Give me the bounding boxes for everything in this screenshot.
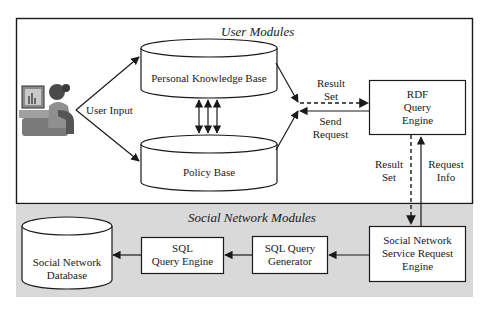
send-request-line1: Send	[303, 115, 358, 128]
sqlgen-line1: SQL Query	[252, 242, 328, 255]
result-set-top-label: Result Set	[306, 77, 356, 103]
snsre-line3: Engine	[369, 260, 466, 273]
user-modules-title: User Modules	[221, 24, 294, 40]
policy-base-cylinder	[141, 135, 277, 191]
sqlgen-line2: Generator	[252, 255, 328, 268]
request-info-line1: Request	[423, 158, 469, 171]
sql-query-generator-label: SQL Query Generator	[252, 242, 328, 268]
social-network-modules-title: Social Network Modules	[188, 210, 316, 226]
snsre-line1: Social Network	[369, 234, 466, 247]
result-set-top-line1: Result	[306, 77, 356, 90]
send-request-line2: Request	[303, 128, 358, 141]
sqleng-line2: Query Engine	[141, 255, 224, 268]
rdf-line3: Engine	[369, 114, 466, 127]
personal-knowledge-base-label: Personal Knowledge Base	[141, 72, 277, 85]
request-info-line2: Info	[423, 171, 469, 184]
result-set-right-line2: Set	[370, 171, 408, 184]
rdf-line2: Query	[369, 101, 466, 114]
social-network-database-label: Social Network Database	[22, 256, 112, 282]
request-info-label: Request Info	[423, 158, 469, 184]
policy-base-label: Policy Base	[141, 166, 277, 179]
sqleng-line1: SQL	[141, 242, 224, 255]
send-request-label: Send Request	[303, 115, 358, 141]
sn-service-request-engine-label: Social Network Service Request Engine	[369, 234, 466, 273]
sndb-line1: Social Network	[22, 256, 112, 269]
sql-query-engine-label: SQL Query Engine	[141, 242, 224, 268]
sndb-line2: Database	[22, 269, 112, 282]
result-set-right-line1: Result	[370, 158, 408, 171]
rdf-query-engine-label: RDF Query Engine	[369, 88, 466, 127]
result-set-top-line2: Set	[306, 90, 356, 103]
user-input-label: User Input	[86, 104, 146, 117]
result-set-right-label: Result Set	[370, 158, 408, 184]
rdf-line1: RDF	[369, 88, 466, 101]
personal-knowledge-base-cylinder	[141, 39, 277, 98]
snsre-line2: Service Request	[369, 247, 466, 260]
